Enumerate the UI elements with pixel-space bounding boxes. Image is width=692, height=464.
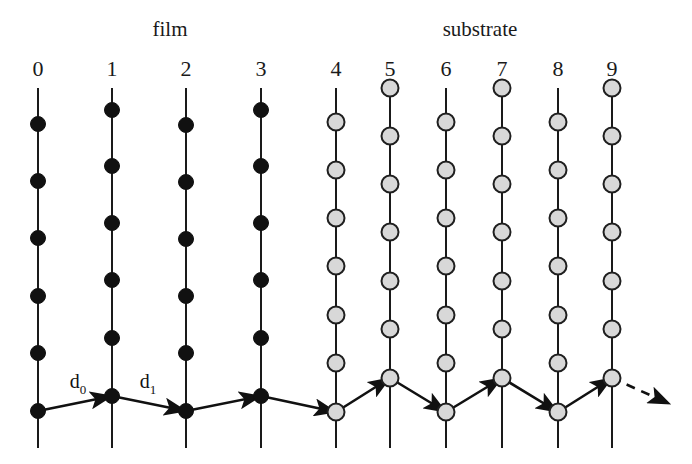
film-atom-2-2 <box>179 232 194 247</box>
film-atom-2-5 <box>179 404 194 419</box>
film-atom-1-2 <box>105 216 120 231</box>
substrate-atom-4-2 <box>328 210 345 227</box>
region-labels: filmsubstrate <box>153 17 518 41</box>
substrate-atom-6-1 <box>438 162 455 179</box>
film-atom-0-5 <box>31 404 46 419</box>
bond-segment-3 <box>261 396 336 412</box>
substrate-atom-4-0 <box>328 114 345 131</box>
substrate-atom-5-5 <box>382 321 399 338</box>
substrate-atom-8-4 <box>550 307 567 324</box>
substrate-atom-5-1 <box>382 128 399 145</box>
film-atom-1-4 <box>105 331 120 346</box>
substrate-atom-5-2 <box>382 176 399 193</box>
film-atom-3-1 <box>254 159 269 174</box>
substrate-atom-9-1 <box>604 128 621 145</box>
substrate-atom-8-0 <box>550 114 567 131</box>
substrate-atom-8-5 <box>550 355 567 372</box>
bond-segment-0 <box>38 396 112 411</box>
film-atom-0-2 <box>31 231 46 246</box>
column-number-9: 9 <box>607 56 618 81</box>
substrate-atom-9-2 <box>604 176 621 193</box>
film-atom-1-5 <box>105 389 120 404</box>
substrate-atom-7-4 <box>494 273 511 290</box>
lattice-diagram: filmsubstrate 0123456789 d0d1 <box>0 0 692 464</box>
bond-segment-1 <box>112 396 186 411</box>
film-atom-0-3 <box>31 289 46 304</box>
substrate-atom-6-5 <box>438 355 455 372</box>
substrate-atom-4-1 <box>328 162 345 179</box>
substrate-atom-5-6 <box>382 370 399 387</box>
substrate-atom-9-4 <box>604 273 621 290</box>
spacing-label-d0: d0 <box>70 370 87 397</box>
bond-segment-8 <box>558 378 612 412</box>
region-label-substrate: substrate <box>443 17 518 41</box>
substrate-atom-9-0 <box>604 80 621 97</box>
column-number-3: 3 <box>256 56 267 81</box>
substrate-atom-8-3 <box>550 258 567 275</box>
bond-segment-4 <box>336 378 390 412</box>
film-atom-1-1 <box>105 159 120 174</box>
column-number-5: 5 <box>385 56 396 81</box>
epitaxy-lattice-figure: filmsubstrate 0123456789 d0d1 <box>0 0 692 464</box>
spacing-label-d1: d1 <box>140 370 157 397</box>
substrate-atom-5-0 <box>382 80 399 97</box>
column-number-labels: 0123456789 <box>33 56 618 81</box>
column-number-8: 8 <box>553 56 564 81</box>
column-number-0: 0 <box>33 56 44 81</box>
bond-segment-6 <box>446 378 502 412</box>
substrate-atom-7-0 <box>494 80 511 97</box>
substrate-atom-8-1 <box>550 162 567 179</box>
column-number-2: 2 <box>181 56 192 81</box>
column-number-7: 7 <box>497 56 508 81</box>
column-number-1: 1 <box>107 56 118 81</box>
column-number-4: 4 <box>331 56 342 81</box>
substrate-atom-6-4 <box>438 307 455 324</box>
substrate-atom-4-4 <box>328 307 345 324</box>
bond-segment-5 <box>390 378 446 412</box>
substrate-atom-7-3 <box>494 224 511 241</box>
film-atom-2-3 <box>179 289 194 304</box>
substrate-atom-9-6 <box>604 370 621 387</box>
film-atom-0-4 <box>31 346 46 361</box>
substrate-atom-8-2 <box>550 210 567 227</box>
film-atom-3-4 <box>254 331 269 346</box>
film-atom-2-0 <box>179 118 194 133</box>
film-atom-1-0 <box>105 103 120 118</box>
atoms-layer <box>31 80 621 421</box>
substrate-atom-6-3 <box>438 258 455 275</box>
film-atom-3-2 <box>254 216 269 231</box>
substrate-atom-4-5 <box>328 355 345 372</box>
film-atom-3-3 <box>254 273 269 288</box>
substrate-atom-6-2 <box>438 210 455 227</box>
substrate-atom-7-5 <box>494 321 511 338</box>
bond-dashed-continuation <box>612 378 670 404</box>
region-label-film: film <box>153 17 188 41</box>
substrate-atom-9-3 <box>604 224 621 241</box>
substrate-atom-4-3 <box>328 258 345 275</box>
column-number-6: 6 <box>441 56 452 81</box>
interface-zigzag-bonds <box>38 378 670 412</box>
film-atom-2-4 <box>179 346 194 361</box>
film-atom-1-3 <box>105 273 120 288</box>
film-atom-3-5 <box>254 389 269 404</box>
substrate-atom-6-6 <box>438 404 455 421</box>
substrate-atom-6-0 <box>438 114 455 131</box>
substrate-atom-4-6 <box>328 404 345 421</box>
substrate-atom-7-6 <box>494 370 511 387</box>
film-atom-0-0 <box>31 117 46 132</box>
substrate-atom-9-5 <box>604 321 621 338</box>
bond-segment-2 <box>186 396 261 411</box>
bond-segment-7 <box>502 378 558 412</box>
film-atom-2-1 <box>179 175 194 190</box>
substrate-atom-7-2 <box>494 176 511 193</box>
film-atom-3-0 <box>254 103 269 118</box>
substrate-atom-8-6 <box>550 404 567 421</box>
substrate-atom-5-4 <box>382 273 399 290</box>
film-atom-0-1 <box>31 174 46 189</box>
substrate-atom-7-1 <box>494 128 511 145</box>
substrate-atom-5-3 <box>382 224 399 241</box>
